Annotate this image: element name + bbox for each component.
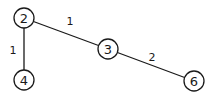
edge-weight-3-6: 2	[149, 51, 156, 64]
graph-diagram: 1 1 2 2 3 4 6	[0, 0, 217, 98]
edge-weight-2-3: 1	[67, 15, 74, 28]
node-6-label: 6	[190, 74, 198, 89]
edge-weight-2-4: 1	[10, 44, 17, 57]
node-4: 4	[14, 70, 34, 90]
node-2-label: 2	[20, 11, 28, 26]
node-4-label: 4	[20, 73, 28, 88]
node-3-label: 3	[104, 42, 112, 57]
node-6: 6	[184, 71, 204, 91]
node-3: 3	[98, 39, 118, 59]
node-2: 2	[14, 8, 34, 28]
nodes: 2 3 4 6	[14, 8, 204, 91]
